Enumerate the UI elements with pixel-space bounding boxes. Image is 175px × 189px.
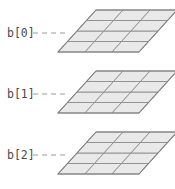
memory-slice: b[1] — [7, 71, 175, 113]
slices-group: b[0]b[1]b[2] — [7, 10, 175, 174]
memory-slices-diagram: b[0]b[1]b[2] — [0, 0, 175, 189]
memory-slice: b[2] — [7, 132, 175, 174]
slice-label: b[0] — [7, 26, 35, 40]
slice-label: b[2] — [7, 148, 35, 162]
slice-label: b[1] — [7, 87, 35, 101]
diagram-canvas: b[0]b[1]b[2] — [0, 0, 175, 189]
memory-slice: b[0] — [7, 10, 175, 52]
